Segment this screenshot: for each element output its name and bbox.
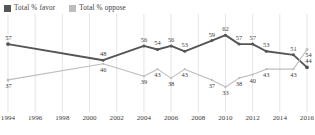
data-point: [102, 63, 104, 65]
data-point: [170, 77, 172, 79]
data-label: 39: [141, 78, 147, 85]
data-label: 56: [168, 36, 174, 43]
data-label: 40: [249, 77, 255, 84]
x-axis-tick-label: 1994: [1, 114, 15, 123]
data-point: [143, 75, 145, 77]
data-point: [265, 50, 268, 53]
data-label: 54: [154, 39, 161, 46]
data-label: 53: [181, 41, 187, 48]
series-favor: 57485654565359625757535144: [5, 25, 312, 69]
data-point: [184, 68, 186, 70]
data-label: 51: [290, 45, 296, 52]
legend-swatch-favor-icon: [4, 5, 11, 12]
data-point: [252, 73, 254, 75]
data-point: [102, 59, 105, 62]
legend-swatch-oppose-icon: [69, 5, 76, 12]
x-axis-tick-label: 2002: [110, 114, 124, 123]
data-point: [156, 48, 159, 51]
x-axis-tick-label: 2006: [164, 114, 178, 123]
data-label: 38: [236, 80, 242, 87]
data-point: [170, 44, 173, 47]
x-axis-tick-label: 2008: [191, 114, 205, 123]
x-axis-tick-label: 2010: [218, 114, 232, 123]
x-axis-tick-label: 2004: [137, 114, 151, 123]
data-point: [6, 42, 10, 46]
data-label: 56: [141, 36, 147, 43]
data-point: [156, 68, 158, 70]
data-label: 54: [305, 51, 312, 58]
data-point: [224, 86, 226, 88]
series-oppose: 37463943384337333840434354: [5, 48, 312, 96]
data-point: [251, 43, 254, 46]
x-axis-tick-label: 2012: [245, 114, 259, 123]
data-point: [211, 79, 213, 81]
data-point: [142, 44, 145, 47]
legend-item-oppose: Total % oppose: [69, 4, 126, 12]
x-axis-tick-label: 2014: [273, 114, 287, 123]
x-axis-tick-label: 2000: [82, 114, 96, 123]
data-label: 43: [290, 71, 296, 78]
data-label: 57: [5, 34, 12, 41]
data-label: 57: [236, 34, 243, 41]
legend-item-favor: Total % favor: [4, 4, 55, 12]
data-label: 43: [181, 71, 187, 78]
chart-svg: 5748565456535962575753514437463943384337…: [0, 14, 315, 112]
data-label: 38: [168, 80, 174, 87]
line-chart: Total % favor Total % oppose 57485654565…: [0, 0, 315, 135]
legend-label-oppose: Total % oppose: [79, 4, 126, 12]
legend-label-favor: Total % favor: [14, 4, 55, 12]
data-label: 43: [263, 71, 269, 78]
data-point: [210, 39, 213, 42]
data-point: [238, 77, 240, 79]
data-point: [265, 68, 267, 70]
data-label: 43: [154, 71, 160, 78]
data-label: 53: [263, 41, 269, 48]
data-point: [305, 65, 309, 69]
x-axis-tick-label: 2016: [300, 114, 314, 123]
plot-area: 5748565456535962575753514437463943384337…: [0, 14, 315, 112]
data-point: [224, 34, 227, 37]
data-label: 33: [222, 89, 228, 96]
data-label: 62: [222, 25, 228, 32]
data-point: [292, 53, 295, 56]
data-label: 48: [100, 50, 106, 57]
data-label: 37: [209, 82, 216, 89]
data-label: 46: [100, 66, 106, 73]
x-axis-tick-label: 1996: [28, 114, 42, 123]
data-label: 37: [5, 82, 12, 89]
data-point: [292, 68, 294, 70]
x-axis-tick-label: 1998: [55, 114, 69, 123]
chart-legend: Total % favor Total % oppose: [4, 2, 126, 14]
data-label: 57: [249, 34, 256, 41]
data-label: 59: [209, 31, 215, 38]
x-axis: 1994199619982000200220042006200820102012…: [0, 114, 315, 134]
data-point: [238, 43, 241, 46]
data-point: [183, 50, 186, 53]
